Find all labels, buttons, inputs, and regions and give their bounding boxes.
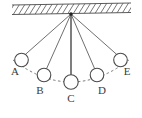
pendulum-string-e xyxy=(71,14,117,55)
pendulum-figure-svg: ABCDE xyxy=(0,0,142,118)
pendulum-string-b xyxy=(47,14,71,69)
pendulum-diagram: ABCDE xyxy=(0,0,142,118)
pivot-point xyxy=(69,12,73,16)
ceiling-hatch-line xyxy=(131,2,140,17)
pendulum-bob-b xyxy=(37,68,51,82)
ceiling-hatch-line xyxy=(115,2,124,17)
ceiling-hatch-line xyxy=(109,2,118,17)
ceiling-hatch-line xyxy=(104,2,113,17)
ceiling-hatch-line xyxy=(126,2,135,17)
ceiling-hatch-line xyxy=(88,2,97,17)
ceiling-hatch-line xyxy=(1,2,10,17)
ceiling-hatch-line xyxy=(0,2,5,17)
pendulum-string-d xyxy=(71,14,95,69)
position-label-a: A xyxy=(11,65,19,77)
pendulum-string-a xyxy=(25,14,71,55)
ceiling-top-edge xyxy=(12,3,131,5)
position-label-c: C xyxy=(67,92,74,104)
pendulum-strings xyxy=(25,14,117,75)
ceiling-hatch-line xyxy=(120,2,129,17)
ceiling-hatch-line xyxy=(93,2,102,17)
ceiling-hatch-line xyxy=(136,2,142,17)
ceiling-hatch-line xyxy=(99,2,108,17)
position-label-d: D xyxy=(98,84,106,96)
position-label-e: E xyxy=(124,65,131,77)
pendulum-bob-d xyxy=(90,68,104,82)
pendulum-bob-c xyxy=(64,75,78,89)
position-label-b: B xyxy=(36,84,43,96)
